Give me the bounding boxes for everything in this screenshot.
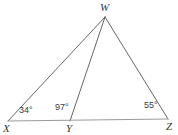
angle-label-z: 55° [144, 101, 158, 110]
segment-WY [70, 17, 105, 121]
segment-XZ [8, 119, 168, 121]
vertex-label-Z: Z [166, 121, 172, 132]
segment-WZ [105, 17, 168, 119]
geometry-figure: W X Y Z 34° 97° 55° [0, 0, 178, 135]
angle-label-x: 34° [19, 106, 33, 115]
vertex-label-X: X [3, 123, 10, 134]
vertex-label-W: W [100, 2, 109, 13]
vertex-label-Y: Y [66, 123, 72, 134]
angle-label-y: 97° [55, 103, 69, 112]
